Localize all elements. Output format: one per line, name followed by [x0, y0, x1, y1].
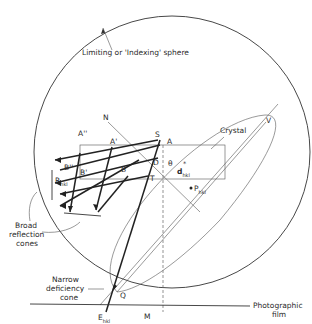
label-Q: Q [120, 291, 126, 300]
arrowhead-3 [60, 191, 66, 197]
diffraction-diagram: Limiting or 'Indexing' sphere Crystal N … [0, 0, 312, 324]
label-E-hkl: Ehkl [98, 313, 110, 324]
label-M: M [144, 312, 150, 321]
ray-down-a1 [96, 147, 112, 210]
label-A2: A'' [78, 129, 87, 138]
label-A: A [167, 137, 173, 146]
label-B2: B'' [64, 163, 73, 172]
ray-down-a2 [70, 153, 80, 212]
label-B1: B' [80, 168, 87, 177]
label-S: S [155, 130, 160, 139]
broad-label-3: cones [16, 239, 38, 248]
arrowhead-1 [55, 157, 61, 163]
film-label-1: Photographic [253, 301, 303, 310]
point-P [190, 187, 193, 190]
film-label-2: film [272, 310, 286, 319]
label-B: B [121, 165, 126, 174]
label-d-hkl: dhkl [177, 167, 190, 178]
sphere-label: Limiting or 'Indexing' sphere [82, 48, 189, 57]
narrow-label-2: deficiency [46, 284, 85, 293]
crystal-label: Crystal [220, 126, 246, 135]
label-d-star: * [183, 160, 187, 168]
broad-leader-1 [29, 192, 37, 221]
label-R-hkl: Rhkl [55, 176, 68, 187]
narrow-label-3: cone [60, 293, 78, 302]
crystal-leader [211, 137, 224, 149]
label-D: D [153, 158, 159, 167]
narrow-label-1: Narrow [52, 275, 79, 284]
bracket-bottom [64, 213, 101, 216]
broad-label-1: Broad [15, 221, 37, 230]
label-N: N [103, 113, 109, 122]
label-theta: θ [168, 159, 173, 168]
label-P-hkl: Phkl [194, 184, 206, 195]
label-T: T [149, 174, 155, 183]
broad-leader-2 [42, 222, 80, 232]
label-V: V [266, 116, 272, 125]
broad-label-2: reflection [9, 230, 45, 239]
photographic-film-line [30, 304, 250, 306]
line-qv [100, 104, 278, 305]
label-A1: A' [110, 137, 117, 146]
